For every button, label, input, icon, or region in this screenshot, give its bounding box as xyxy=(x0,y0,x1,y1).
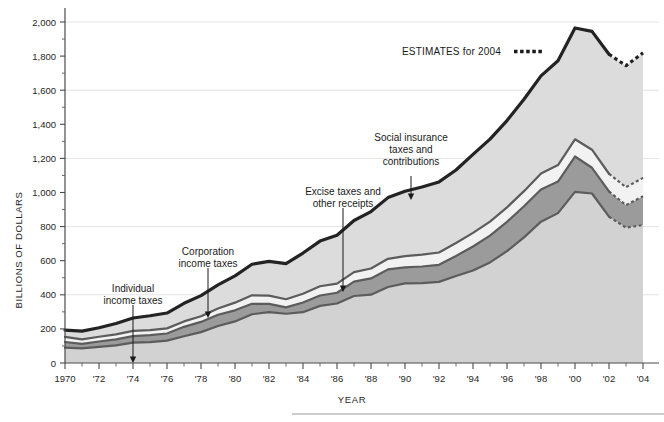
y-tick-label: 1,000 xyxy=(32,187,56,198)
x-tick-label: '74 xyxy=(127,373,139,384)
x-tick-label: 1970 xyxy=(54,373,75,384)
x-tick-label: '76 xyxy=(161,373,173,384)
x-tick-label: '80 xyxy=(229,373,241,384)
x-tick-label: '96 xyxy=(501,373,513,384)
x-tick-label: '00 xyxy=(569,373,581,384)
y-tick-label: 1,600 xyxy=(32,85,56,96)
chart-canvas: 02004006008001,0001,2001,4001,6001,8002,… xyxy=(0,0,664,422)
annotation-label: Excise taxes and xyxy=(305,186,381,197)
x-axis-title: YEAR xyxy=(338,394,366,405)
y-tick-label: 400 xyxy=(40,289,56,300)
y-tick-label: 1,800 xyxy=(32,51,56,62)
x-tick-label: '90 xyxy=(399,373,411,384)
x-tick-label: '82 xyxy=(263,373,275,384)
y-tick-label: 800 xyxy=(40,221,56,232)
x-tick-label: '78 xyxy=(195,373,207,384)
x-tick-label: '94 xyxy=(467,373,479,384)
annotation-label: income taxes xyxy=(179,258,238,269)
annotation-label: other receipts xyxy=(313,198,374,209)
y-tick-label: 0 xyxy=(51,358,56,369)
y-tick-label: 2,000 xyxy=(32,17,56,28)
y-axis-title: BILLIONS OF DOLLARS xyxy=(13,192,24,309)
annotation-label: Individual xyxy=(112,283,154,294)
legend-label: ESTIMATES for 2004 xyxy=(402,46,501,57)
y-tick-label: 600 xyxy=(40,255,56,266)
x-tick-label: '86 xyxy=(331,373,343,384)
x-tick-label: '84 xyxy=(297,373,309,384)
annotation-label: Corporation xyxy=(182,246,234,257)
y-tick-label: 1,400 xyxy=(32,119,56,130)
annotation-label: contributions xyxy=(383,156,440,167)
y-tick-label: 200 xyxy=(40,323,56,334)
annotation-label: income taxes xyxy=(104,295,163,306)
x-tick-label: '04 xyxy=(637,373,649,384)
x-tick-label: '98 xyxy=(535,373,547,384)
x-tick-label: '92 xyxy=(433,373,445,384)
y-tick-label: 1,200 xyxy=(32,153,56,164)
tax-revenue-area-chart: 02004006008001,0001,2001,4001,6001,8002,… xyxy=(0,0,664,422)
x-tick-label: '88 xyxy=(365,373,377,384)
annotation-label: Social insurance xyxy=(374,132,448,143)
x-tick-label: '72 xyxy=(93,373,105,384)
x-tick-label: '02 xyxy=(603,373,615,384)
annotation-label: taxes and xyxy=(389,144,432,155)
